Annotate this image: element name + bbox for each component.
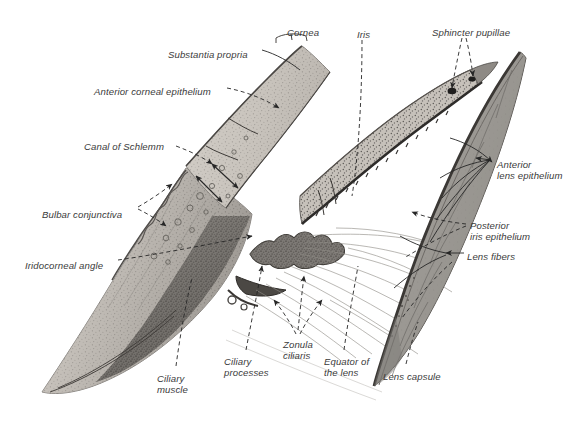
- sphincter-pupillae-spot-1: [448, 88, 457, 94]
- label-ciliary-processes: Ciliary processes: [224, 356, 269, 379]
- label-bulbar-conjunctiva: Bulbar conjunctiva: [42, 209, 122, 220]
- label-zonula-ciliaris: Zonula ciliaris: [283, 339, 313, 362]
- label-iridocorneal-angle: Iridocorneal angle: [25, 260, 103, 271]
- label-substantia-propria: Substantia propria: [168, 49, 248, 60]
- label-lens-capsule: Lens capsule: [383, 371, 441, 382]
- label-cornea: Cornea: [287, 27, 319, 38]
- label-anterior-corneal-epithelium: Anterior corneal epithelium: [94, 86, 211, 97]
- label-lens-fibers: Lens fibers: [467, 251, 515, 262]
- anatomical-figure: Cornea Substantia propria Anterior corne…: [0, 0, 583, 430]
- label-canal-of-schlemm: Canal of Schlemm: [84, 141, 164, 152]
- label-posterior-iris-epithelium: Posterior iris epithelium: [470, 220, 530, 243]
- label-ciliary-muscle: Ciliary muscle: [157, 373, 188, 396]
- label-equator-of-the-lens: Equator of the lens: [324, 356, 369, 379]
- label-sphincter-pupillae: Sphincter pupillae: [432, 27, 510, 38]
- label-anterior-lens-epithelium: Anterior lens epithelium: [497, 159, 563, 182]
- label-iris: Iris: [357, 29, 370, 40]
- sphincter-pupillae-spot-2: [468, 76, 475, 81]
